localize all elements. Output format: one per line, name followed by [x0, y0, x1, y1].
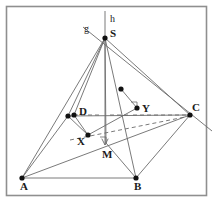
vertex-dot-D2: [65, 113, 70, 118]
vertex-dot-B: [133, 175, 138, 180]
geometry-figure: SABCDXYMgh: [0, 0, 222, 208]
vertex-dot-X: [85, 132, 90, 137]
vertex-dot-S: [102, 35, 107, 40]
vertex-dot-C: [187, 112, 192, 117]
vertex-dot-D: [71, 112, 76, 117]
figure-canvas: [0, 0, 222, 208]
figure-background: [0, 0, 222, 208]
vertex-dot-A: [19, 175, 24, 180]
vertex-dot-Y: [134, 105, 139, 110]
vertex-dot-P: [118, 86, 123, 91]
